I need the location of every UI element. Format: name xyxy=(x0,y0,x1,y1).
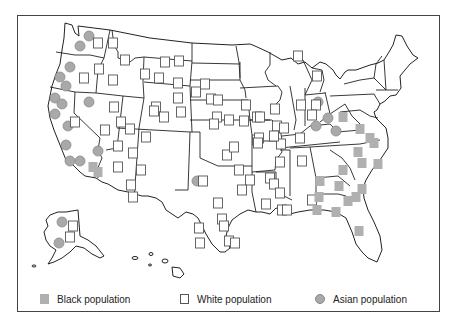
asian-population-marker xyxy=(75,41,85,51)
white-population-marker xyxy=(271,104,280,114)
black-population-marker xyxy=(354,147,363,157)
black-population-marker xyxy=(315,192,324,202)
white-population-marker xyxy=(276,188,285,198)
white-population-marker xyxy=(69,221,78,231)
white-population-marker xyxy=(254,138,263,148)
black-population-marker xyxy=(94,167,103,177)
white-population-marker xyxy=(137,165,146,175)
asian-population-marker xyxy=(84,97,94,107)
black-population-marker xyxy=(370,138,379,148)
legend-label-white: White population xyxy=(197,294,272,305)
white-population-marker xyxy=(242,100,251,110)
white-population-marker xyxy=(95,64,104,74)
white-population-marker xyxy=(117,117,126,127)
white-population-marker xyxy=(235,165,244,175)
white-population-marker xyxy=(129,192,138,202)
white-population-marker xyxy=(296,133,305,143)
white-population-marker xyxy=(210,119,219,129)
white-population-marker xyxy=(214,198,223,208)
asian-population-marker xyxy=(65,156,75,166)
white-population-marker xyxy=(80,73,89,83)
white-population-marker xyxy=(126,124,135,134)
black-population-marker xyxy=(352,192,361,202)
white-population-marker xyxy=(308,110,317,120)
white-population-marker xyxy=(150,106,159,116)
white-population-marker xyxy=(270,179,279,189)
asian-population-marker xyxy=(65,62,75,72)
legend-label-asian: Asian population xyxy=(333,294,407,305)
white-population-marker xyxy=(196,238,205,248)
white-population-marker xyxy=(262,199,271,209)
white-population-swatch-icon xyxy=(180,294,189,304)
asian-population-marker xyxy=(57,99,67,109)
white-population-marker xyxy=(246,175,255,185)
black-population-swatch-icon xyxy=(40,294,49,304)
white-population-marker xyxy=(298,156,307,166)
white-population-marker xyxy=(256,112,265,122)
white-population-marker xyxy=(270,131,279,141)
black-population-marker xyxy=(316,176,325,186)
white-population-marker xyxy=(294,51,303,61)
white-population-marker xyxy=(177,107,186,117)
black-population-marker xyxy=(339,165,348,175)
white-population-marker xyxy=(313,71,322,81)
asian-population-marker xyxy=(93,146,103,156)
white-population-marker xyxy=(230,142,239,152)
legend-item-black: Black population xyxy=(40,291,130,307)
white-population-marker xyxy=(109,75,118,85)
asian-population-marker xyxy=(84,31,94,41)
white-population-marker xyxy=(114,162,123,172)
black-population-marker xyxy=(344,196,353,206)
asian-population-marker xyxy=(61,81,71,91)
white-population-marker xyxy=(201,79,210,89)
white-population-marker xyxy=(109,38,118,48)
asian-population-swatch-icon xyxy=(315,294,325,304)
asian-population-marker xyxy=(55,72,65,82)
asian-population-marker xyxy=(54,238,64,248)
white-population-marker xyxy=(276,157,285,167)
black-population-marker xyxy=(332,207,341,217)
white-population-marker xyxy=(114,141,123,151)
white-population-marker xyxy=(161,57,170,67)
black-population-marker xyxy=(339,112,348,122)
white-population-marker xyxy=(66,232,75,242)
white-population-marker xyxy=(195,223,204,233)
white-population-marker xyxy=(101,125,110,135)
white-population-marker xyxy=(129,148,138,158)
white-population-marker xyxy=(231,238,240,248)
white-population-marker xyxy=(174,93,183,103)
white-population-marker xyxy=(94,38,103,48)
white-population-marker xyxy=(199,176,208,186)
white-population-marker xyxy=(141,69,150,79)
white-population-marker xyxy=(240,116,249,126)
black-population-marker xyxy=(355,226,364,236)
white-population-marker xyxy=(160,112,169,122)
white-population-marker xyxy=(297,100,306,110)
white-population-marker xyxy=(312,100,321,110)
white-population-marker xyxy=(238,185,247,195)
legend-item-white: White population xyxy=(180,291,272,307)
white-population-marker xyxy=(142,132,151,142)
white-population-marker xyxy=(155,73,164,83)
asian-population-marker xyxy=(331,126,341,136)
white-population-marker xyxy=(175,56,184,66)
white-population-marker xyxy=(225,115,234,125)
white-population-marker xyxy=(174,78,183,88)
black-population-marker xyxy=(313,205,322,215)
legend-item-asian: Asian population xyxy=(315,291,407,307)
white-population-marker xyxy=(220,221,229,231)
asian-population-marker xyxy=(57,217,67,227)
white-population-marker xyxy=(283,205,292,215)
white-population-marker xyxy=(280,123,289,133)
white-population-marker xyxy=(121,55,130,65)
black-population-marker xyxy=(358,158,367,168)
legend-label-black: Black population xyxy=(57,294,130,305)
legend: Black population White population Asian … xyxy=(17,291,440,307)
asian-population-marker xyxy=(50,109,60,119)
white-population-marker xyxy=(110,102,119,112)
asian-population-marker xyxy=(75,156,85,166)
black-population-marker xyxy=(335,181,344,191)
black-population-marker xyxy=(374,159,383,169)
white-population-marker xyxy=(127,180,136,190)
asian-population-marker xyxy=(311,121,321,131)
